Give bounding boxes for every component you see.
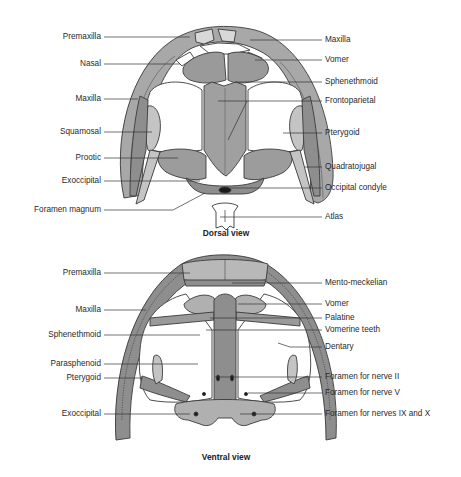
ventral-label-palatine: Palatine [325, 313, 355, 323]
ventral-label-sphenethmoid: Sphenethmoid [48, 330, 101, 340]
ventral-view-caption: Ventral view [166, 452, 286, 462]
ventral-label-dentary: Dentary [325, 342, 354, 352]
dorsal-label-occipital-condyle: Occipital condyle [325, 183, 387, 193]
ventral-label-foramen-for-nerves-ix-and-x: Foramen for nerves IX and X [325, 409, 430, 419]
dorsal-foramen-magnum [219, 187, 231, 193]
dorsal-label-atlas: Atlas [325, 212, 343, 222]
ventral-exoccipital [175, 400, 276, 426]
dorsal-label-vomer: Vomer [325, 55, 349, 65]
dorsal-view-caption: Dorsal view [166, 228, 286, 238]
dorsal-label-foramen-magnum: Foramen magnum [34, 205, 101, 215]
dorsal-label-pterygoid: Pterygoid [325, 128, 360, 138]
dorsal-label-frontoparietal: Frontoparietal [325, 96, 376, 106]
dorsal-label-prootic: Prootic [76, 153, 101, 163]
skull-illustration [0, 0, 461, 477]
ventral-label-vomerine-teeth: Vomerine teeth [325, 325, 380, 335]
dorsal-label-nasal: Nasal [80, 59, 101, 69]
dorsal-label-sphenethmoid: Sphenethmoid [325, 77, 378, 87]
frog-skull-diagram: PremaxillaNasalMaxillaSquamosalProoticEx… [0, 0, 461, 477]
ventral-label-mento-meckelian: Mento-meckelian [325, 278, 387, 288]
foramen-nerves-ix-x-left [194, 412, 198, 416]
ventral-parasphenoid [214, 294, 236, 404]
ventral-label-vomer: Vomer [325, 299, 349, 309]
ventral-label-parasphenoid: Parasphenoid [50, 359, 101, 369]
dorsal-label-maxilla: Maxilla [76, 94, 101, 104]
dorsal-label-quadratojugal: Quadratojugal [325, 162, 376, 172]
dorsal-label-exoccipital: Exoccipital [62, 176, 101, 186]
ventral-skull [115, 255, 336, 440]
dorsal-skull [120, 26, 333, 230]
foramen-nerve-ii-left [216, 375, 219, 381]
ventral-label-premaxilla: Premaxilla [63, 268, 101, 278]
foramen-nerve-v-left [202, 392, 205, 395]
dorsal-label-maxilla: Maxilla [325, 35, 350, 45]
dorsal-label-premaxilla: Premaxilla [63, 32, 101, 42]
ventral-label-pterygoid: Pterygoid [66, 373, 101, 383]
ventral-label-foramen-for-nerve-ii: Foramen for nerve II [325, 372, 399, 382]
ventral-label-exoccipital: Exoccipital [62, 409, 101, 419]
dorsal-prootic [158, 149, 206, 180]
dorsal-label-squamosal: Squamosal [60, 127, 101, 137]
ventral-label-foramen-for-nerve-v: Foramen for nerve V [325, 388, 400, 398]
ventral-label-maxilla: Maxilla [76, 305, 101, 315]
